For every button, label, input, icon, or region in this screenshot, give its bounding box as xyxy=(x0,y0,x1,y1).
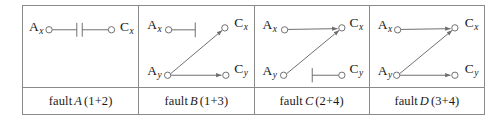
edge-ay-to-cx-diagonal xyxy=(286,30,338,73)
edge-ax-to-cx-horizontal xyxy=(401,29,451,30)
node-circle-cy xyxy=(338,72,344,78)
node-circle-ay xyxy=(393,72,399,78)
node-circle-cx xyxy=(108,27,114,33)
panel-a-graphics xyxy=(23,6,138,87)
caption-fault-c: faultC(2+4) xyxy=(254,88,369,114)
caption-fault-b: faultB(1+3) xyxy=(138,88,253,114)
edge-ax-to-cx-horizontal xyxy=(287,29,337,30)
node-circle-cy xyxy=(451,72,457,78)
diagram-row: Ax Cx Ax Ay Cx Cy xyxy=(23,6,484,87)
node-circle-cx xyxy=(338,25,344,31)
fault-diagram-figure: Ax Cx Ax Ay Cx Cy xyxy=(22,5,485,115)
node-circle-ay xyxy=(280,72,286,78)
panel-b-graphics xyxy=(139,6,253,87)
caption-row: faultA(1+2) faultB(1+3) faultC(2+4) faul… xyxy=(23,87,484,114)
node-circle-cx xyxy=(451,25,457,31)
caption-fault-a: faultA(1+2) xyxy=(23,88,138,114)
edge-ay-to-cx-diagonal xyxy=(171,30,222,73)
node-circle-ax xyxy=(394,27,400,33)
panel-c-graphics xyxy=(255,6,369,87)
panel-fault-d: Ax Ay Cx Cy xyxy=(369,6,484,87)
node-circle-ay xyxy=(165,72,171,78)
node-circle-ax xyxy=(281,27,287,33)
node-circle-ax xyxy=(46,27,52,33)
node-circle-ax xyxy=(166,27,172,33)
panel-d-graphics xyxy=(370,6,484,87)
caption-fault-d: faultD(3+4) xyxy=(369,88,484,114)
node-circle-cx xyxy=(222,25,228,31)
panel-fault-a: Ax Cx xyxy=(23,6,138,87)
node-circle-cy xyxy=(223,72,229,78)
panel-fault-c: Ax Ay Cx Cy xyxy=(254,6,369,87)
edge-ay-to-cx-diagonal xyxy=(399,30,451,73)
panel-fault-b: Ax Ay Cx Cy xyxy=(138,6,253,87)
